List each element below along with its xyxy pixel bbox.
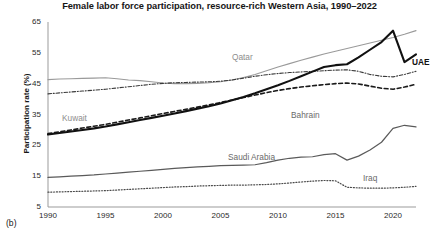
series-line-kuwait [48, 70, 416, 94]
y-tick-label: 25 [19, 140, 41, 149]
x-tick-label: 2010 [258, 211, 298, 220]
y-tick-label: 15 [19, 171, 41, 180]
x-tick-label: 2005 [201, 211, 241, 220]
chart-container: Female labor force participation, resour… [0, 0, 439, 242]
y-tick-label: 35 [19, 110, 41, 119]
series-label-iraq: Iraq [363, 173, 377, 183]
series-label-kuwait: Kuwait [62, 113, 87, 123]
y-tick-label: 65 [19, 17, 41, 26]
x-tick-label: 2000 [143, 211, 183, 220]
y-tick-label: 5 [19, 202, 41, 211]
series-label-uae: UAE [412, 57, 430, 67]
series-label-qatar: Qatar [232, 52, 253, 62]
axis-lines [48, 22, 416, 207]
x-tick-label: 1990 [28, 211, 68, 220]
x-tick-label: 2015 [316, 211, 356, 220]
series-label-bahrain: Bahrain [291, 110, 320, 120]
series-label-saudi-arabia: Saudi Arabia [228, 152, 275, 162]
series-line-iraq [48, 180, 416, 192]
y-tick-label: 55 [19, 48, 41, 57]
series-line-uae [48, 31, 416, 135]
x-tick-label: 2020 [373, 211, 413, 220]
x-tick-label: 1995 [86, 211, 126, 220]
y-tick-label: 45 [19, 79, 41, 88]
